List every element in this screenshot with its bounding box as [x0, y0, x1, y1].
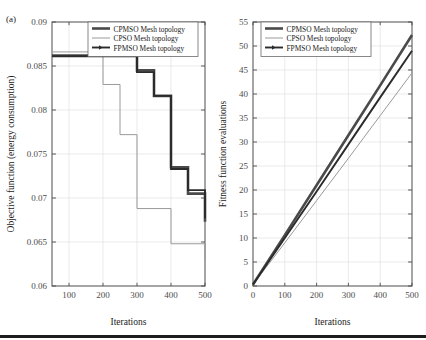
- series-line-cpso: [253, 73, 412, 285]
- x-tick-label: 300: [342, 290, 356, 300]
- figure-container: (a) 1002003004005000.060.0650.070.0750.0…: [0, 0, 426, 340]
- y-tick-label: 25: [239, 161, 249, 171]
- x-tick-label: 100: [278, 290, 292, 300]
- series-line-cpmso: [52, 55, 205, 221]
- panel-tag-a: (a): [6, 14, 16, 24]
- y-tick-label: 55: [239, 17, 249, 27]
- x-tick-label: 500: [198, 290, 212, 300]
- x-tick-label: 200: [310, 290, 324, 300]
- y-tick-label: 0.07: [31, 193, 47, 203]
- series-line-fpmso: [52, 56, 205, 218]
- series-line-cpmso: [253, 35, 412, 285]
- x-axis-label: Iterations: [111, 317, 147, 327]
- y-tick-label: 0.085: [27, 61, 48, 71]
- y-tick-label: 0: [244, 281, 249, 291]
- y-axis-label: Objective function (energy consumption): [6, 76, 17, 233]
- y-tick-label: 35: [239, 113, 249, 123]
- y-tick-label: 30: [239, 137, 249, 147]
- fitness-evaluations-panel: 01002003004005000510152025303540455055It…: [213, 0, 426, 330]
- y-tick-label: 45: [239, 65, 249, 75]
- legend-label-fpmso: FPMSO Mesh topology: [114, 44, 185, 53]
- legend-label-cpso: CPSO Mesh topology: [114, 34, 179, 43]
- y-tick-label: 15: [239, 209, 249, 219]
- legend-label-cpmso: CPMSO Mesh topology: [287, 25, 359, 34]
- x-tick-label: 300: [130, 290, 144, 300]
- legend-label-fpmso: FPMSO Mesh topology: [287, 44, 358, 53]
- y-axis-label: Fitness function evaluations: [218, 100, 228, 207]
- legend-label-cpmso: CPMSO Mesh topology: [114, 25, 186, 34]
- fitness-evaluations-plot: 01002003004005000510152025303540455055It…: [213, 0, 426, 330]
- y-tick-label: 20: [239, 185, 249, 195]
- y-tick-label: 5: [244, 257, 249, 267]
- x-tick-label: 400: [373, 290, 387, 300]
- x-tick-label: 500: [405, 290, 419, 300]
- y-tick-label: 0.06: [31, 281, 47, 291]
- objective-function-panel: (a) 1002003004005000.060.0650.070.0750.0…: [0, 0, 213, 330]
- series-line-cpso: [52, 52, 205, 261]
- x-tick-label: 200: [96, 290, 110, 300]
- y-tick-label: 10: [239, 233, 249, 243]
- y-tick-label: 0.075: [27, 149, 48, 159]
- x-tick-label: 400: [164, 290, 178, 300]
- x-axis-label: Iterations: [315, 317, 351, 327]
- y-tick-label: 0.08: [31, 105, 47, 115]
- y-tick-label: 0.065: [27, 237, 48, 247]
- bottom-rule: [0, 335, 426, 338]
- x-tick-label: 100: [62, 290, 76, 300]
- y-tick-label: 40: [239, 89, 249, 99]
- objective-function-plot: 1002003004005000.060.0650.070.0750.080.0…: [0, 0, 213, 330]
- series-line-fpmso: [253, 51, 412, 285]
- x-tick-label: 0: [251, 290, 256, 300]
- legend-label-cpso: CPSO Mesh topology: [287, 34, 352, 43]
- y-tick-label: 50: [239, 41, 249, 51]
- y-tick-label: 0.09: [31, 17, 47, 27]
